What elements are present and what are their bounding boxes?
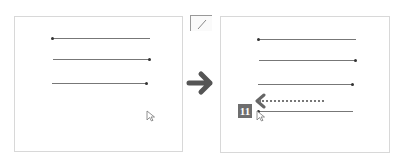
endpoint [51, 37, 54, 40]
line-3 [258, 84, 353, 85]
line-2 [53, 59, 150, 60]
line-1 [52, 38, 150, 39]
line-3 [52, 83, 147, 84]
endpoint [257, 38, 260, 41]
endpoint [351, 83, 354, 86]
before-canvas [14, 16, 183, 152]
line-tool-icon [190, 15, 212, 31]
step-badge: 11 [238, 104, 252, 118]
right-arrow-icon [186, 70, 214, 96]
endpoint [148, 58, 151, 61]
line-2 [259, 60, 356, 61]
line-1 [258, 39, 356, 40]
drag-path [259, 100, 324, 102]
endpoint [354, 59, 357, 62]
endpoint [145, 82, 148, 85]
mouse-cursor-icon [146, 110, 156, 122]
mouse-cursor-icon [256, 110, 266, 122]
line-4-new [258, 111, 353, 112]
